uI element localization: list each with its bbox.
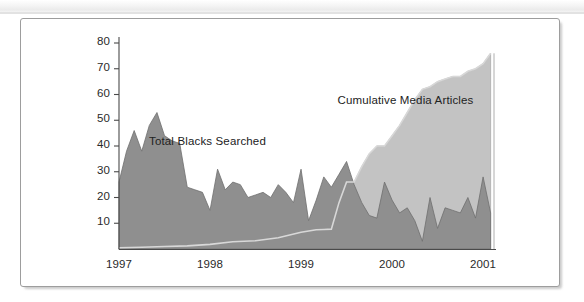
figure-frame: 102030405060708019971998199920002001Tota… (20, 18, 560, 287)
y-axis-tick-label: 40 (86, 138, 110, 150)
y-axis-tick-label: 20 (86, 190, 110, 202)
x-axis-tick-label: 2000 (376, 258, 408, 270)
series-annotation-label: Cumulative Media Articles (337, 94, 473, 106)
chart-canvas (21, 19, 561, 288)
x-axis-tick-label: 1997 (103, 258, 135, 270)
scanned-page: 102030405060708019971998199920002001Tota… (0, 0, 584, 302)
series-annotation-label: Total Blacks Searched (149, 135, 266, 147)
y-axis-tick-label: 30 (86, 164, 110, 176)
page-top-band-edge (0, 12, 584, 14)
y-axis-tick-label: 50 (86, 112, 110, 124)
y-axis-tick-label: 60 (86, 87, 110, 99)
x-axis-tick-label: 1998 (194, 258, 226, 270)
y-axis-tick-label: 70 (86, 61, 110, 73)
x-axis-tick-label: 1999 (285, 258, 317, 270)
area-chart: 102030405060708019971998199920002001Tota… (21, 19, 561, 288)
y-axis-tick-label: 80 (86, 35, 110, 47)
x-axis-tick-label: 2001 (467, 258, 499, 270)
y-axis-tick-label: 10 (86, 215, 110, 227)
